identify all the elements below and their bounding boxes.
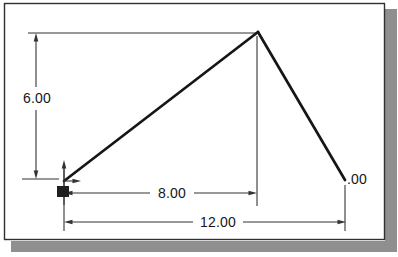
shadow-bottom-strip: [11, 241, 397, 252]
figure-frame: [5, 4, 385, 240]
dim-label-width-inner: 8.00: [158, 185, 186, 201]
shadow-right-strip: [385, 9, 397, 252]
selected-point-marker: [57, 186, 69, 197]
sketch-canvas: 6.00 8.00 12.00 .00: [0, 0, 398, 257]
cad-sketch-figure: 6.00 8.00 12.00 .00: [0, 0, 398, 257]
dim-label-vertical: 6.00: [23, 90, 51, 106]
dim-label-width-overall: 12.00: [200, 214, 236, 230]
dim-label-right-clipped: .00: [347, 171, 367, 187]
